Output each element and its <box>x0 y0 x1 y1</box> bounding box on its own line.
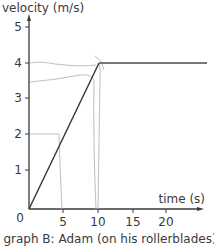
x-axis-label: time (s) <box>158 192 205 206</box>
guide-lines <box>30 56 104 209</box>
x-tick-label: 10 <box>90 215 105 229</box>
axes <box>27 14 204 211</box>
x-tick-label: 20 <box>158 215 173 229</box>
y-axis-label: velocity (m/s) <box>2 1 84 15</box>
x-tick-label: 15 <box>125 215 140 229</box>
series-adam <box>29 63 207 209</box>
x-tick-label: 5 <box>59 215 67 229</box>
chart-caption: graph B: Adam (on his rollerblades) <box>3 232 214 246</box>
origin-label: 0 <box>16 211 24 225</box>
y-tick-label: 5 <box>14 20 22 34</box>
y-tick-label: 1 <box>14 163 22 177</box>
velocity-time-chart: 5 4 3 2 1 5 10 15 20 0 velocity (m/s) ti… <box>0 0 214 247</box>
y-tick-label: 2 <box>14 127 22 141</box>
y-tick-label: 4 <box>14 56 22 70</box>
x-axis-arrow-icon <box>197 207 204 211</box>
y-tick-labels: 5 4 3 2 1 <box>14 20 22 177</box>
y-tick-label: 3 <box>14 91 22 105</box>
acceleration-segment <box>29 63 99 209</box>
x-tick-labels: 5 10 15 20 <box>59 215 173 229</box>
y-axis-arrow-icon <box>27 14 31 21</box>
